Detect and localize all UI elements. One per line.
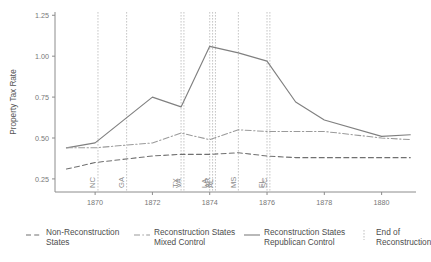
- state-label-VA: VA: [174, 177, 183, 188]
- state-label-SC: SC: [260, 177, 269, 188]
- state-label-AL: AL: [206, 179, 215, 188]
- y-tick-label-4: 1.25: [35, 11, 49, 20]
- legend-label-0: Non-Reconstruction States: [46, 228, 119, 248]
- legend-label-3: End of Reconstruction: [376, 228, 431, 248]
- legend-entry-1[interactable]: Reconstruction States Mixed Control: [134, 228, 244, 248]
- legend-swatch-solid-icon: [244, 230, 260, 242]
- legend-label-2: Reconstruction States Republican Control: [264, 228, 345, 248]
- state-label-MS: MS: [229, 177, 238, 188]
- state-label-GA: GA: [117, 176, 126, 188]
- y-tick-label-1: 0.50: [35, 134, 49, 143]
- y-tick-label-3: 1.00: [35, 52, 49, 61]
- legend-label-1: Reconstruction States Mixed Control: [154, 228, 235, 248]
- legend-swatch-dashdot-icon: [134, 230, 150, 242]
- x-tick-label-2: 1874: [202, 198, 218, 207]
- legend-entry-3[interactable]: End of Reconstruction: [356, 228, 424, 248]
- y-tick-label-2: 0.75: [35, 93, 49, 102]
- legend-swatch-dashed-icon: [26, 230, 42, 242]
- y-tick-label-0: 0.25: [35, 175, 49, 184]
- legend-entry-0[interactable]: Non-Reconstruction States: [26, 228, 134, 248]
- x-tick-label-4: 1878: [316, 198, 332, 207]
- x-tick-label-3: 1876: [259, 198, 275, 207]
- x-tick-label-1: 1872: [144, 198, 160, 207]
- x-tick-label-5: 1880: [374, 198, 390, 207]
- x-tick-label-0: 1870: [87, 198, 103, 207]
- series-line-2: [66, 153, 410, 169]
- y-axis-title: Property Tax Rate: [9, 69, 18, 135]
- chart-legend: Non-Reconstruction StatesReconstruction …: [26, 228, 424, 248]
- legend-swatch-vline-icon: [356, 230, 372, 242]
- legend-entry-2[interactable]: Reconstruction States Republican Control: [244, 228, 356, 248]
- state-label-NC: NC: [88, 177, 97, 188]
